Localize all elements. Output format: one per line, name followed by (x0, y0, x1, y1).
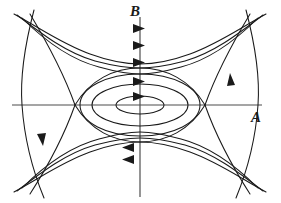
phase-portrait-canvas (0, 0, 281, 203)
arrowhead-up-2 (133, 41, 145, 50)
arrowhead-side-right-up (227, 73, 235, 86)
arrowhead-up-1 (133, 24, 145, 33)
axis-label-a: A (251, 110, 261, 125)
separatrix-left-lower-branch (30, 105, 75, 194)
separatrix-right-lower-branch (205, 105, 250, 194)
arrowhead-down-1 (122, 143, 134, 152)
arrowhead-up-3 (133, 58, 145, 67)
separatrix-right-upper-branch (205, 14, 250, 105)
side-right-outer-curve (236, 10, 259, 198)
separatrix-left-upper-branch (30, 14, 75, 105)
arrowhead-up-5 (133, 92, 145, 101)
arrowhead-up-4 (133, 77, 145, 86)
axis-label-b: B (130, 4, 140, 19)
flow-arrowheads (37, 24, 235, 164)
side-left-outer-curve (22, 10, 45, 198)
arrowhead-side-left-down (37, 133, 46, 146)
arrowhead-down-2 (122, 155, 134, 164)
phase-portrait-figure: B A (0, 0, 281, 203)
